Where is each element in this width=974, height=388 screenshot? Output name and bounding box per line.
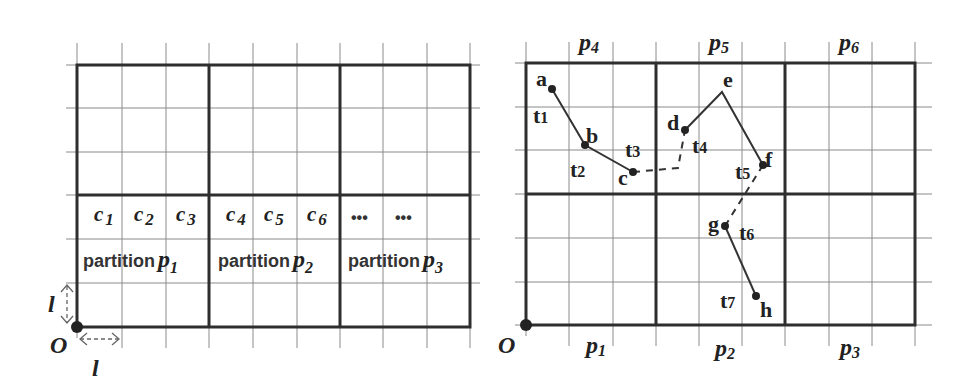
partition-label-p4: p4: [577, 29, 599, 56]
point-g: [721, 222, 729, 230]
point-d: [681, 126, 689, 134]
cell-label-c2: c2: [134, 202, 154, 229]
point-label-h: h: [760, 297, 772, 322]
cell-size-arrow-vertical: [61, 285, 73, 323]
cell-size-arrow-horizontal: [80, 333, 119, 345]
trajectory-gap-c-d: [633, 130, 685, 172]
right-bottom-partition-labels: p1 p2 p3: [584, 332, 860, 362]
point-label-e: e: [723, 67, 733, 92]
right-grid: p4 p5 p6 p1 p2 p3 O: [498, 29, 932, 362]
point-label-f: f: [765, 147, 773, 172]
diagram-canvas: c1 c2 c3 c4 c5 c6 ••• ••• partitionp1 pa…: [0, 0, 974, 388]
ellipsis-2: •••: [395, 209, 412, 226]
left-origin-dot: [71, 321, 83, 333]
partition-label-p1: partitionp1: [83, 246, 178, 276]
partition-label-p5: p5: [707, 29, 729, 56]
left-partition-borders: [77, 65, 470, 327]
left-grid: c1 c2 c3 c4 c5 c6 ••• ••• partitionp1 pa…: [48, 43, 480, 381]
point-label-c: c: [618, 165, 628, 190]
partition-label-p6: p6: [837, 29, 859, 56]
point-label-a: a: [536, 66, 547, 91]
cell-label-c4: c4: [226, 202, 246, 229]
point-h: [752, 292, 760, 300]
point-c: [629, 168, 637, 176]
time-label-t2: t2: [570, 157, 585, 182]
time-label-t4: t4: [692, 133, 707, 158]
partition-label-p2-right: p2: [713, 335, 735, 362]
right-origin-label: O: [498, 332, 515, 358]
point-label-d: d: [667, 110, 679, 135]
cell-size-label-horizontal: l: [92, 355, 99, 381]
cell-label-c5: c5: [264, 202, 284, 229]
time-label-t6: t6: [739, 220, 754, 245]
right-partition-borders: [526, 63, 915, 325]
partition-label-p3-right: p3: [838, 334, 860, 361]
cell-label-c3: c3: [176, 202, 196, 229]
cell-size-label-vertical: l: [48, 291, 55, 317]
left-origin-label: O: [50, 332, 67, 358]
time-label-t3: t3: [625, 137, 640, 162]
time-label-t5: t5: [735, 159, 750, 184]
partition-labels: partitionp1 partitionp2 partitionp3: [83, 246, 443, 276]
partition-label-p1-right: p1: [584, 332, 606, 359]
partition-label-p2: partitionp2: [218, 246, 313, 276]
point-a: [548, 85, 556, 93]
cell-label-c6: c6: [307, 202, 327, 229]
right-origin-dot: [520, 319, 532, 331]
partition-label-p3: partitionp3: [348, 246, 443, 276]
ellipsis-1: •••: [351, 209, 368, 226]
cell-label-c1: c1: [94, 202, 114, 229]
right-top-partition-labels: p4 p5 p6: [577, 29, 859, 56]
point-label-b: b: [586, 123, 598, 148]
point-label-g: g: [708, 211, 719, 236]
time-label-t7: t7: [720, 288, 735, 313]
